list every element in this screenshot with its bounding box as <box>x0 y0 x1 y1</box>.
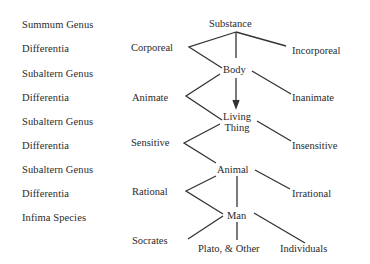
line-substance-incorporeal <box>236 32 286 46</box>
level-subaltern-genus-1: Subaltern Genus <box>22 68 93 80</box>
line-man-individuals <box>254 213 305 243</box>
node-man: Man <box>227 210 246 221</box>
node-animate: Animate <box>132 92 168 103</box>
node-inanimate: Inanimate <box>292 92 334 103</box>
line-animal-rational-man <box>186 176 223 214</box>
line-living-insensitive <box>257 121 291 141</box>
line-living-sensitive-animal <box>184 124 220 163</box>
level-differentia-4: Differentia <box>22 188 69 200</box>
level-differentia-2: Differentia <box>22 92 69 104</box>
node-living-thing-line2: Thing <box>223 122 251 133</box>
level-subaltern-genus-3: Subaltern Genus <box>22 164 93 176</box>
node-irrational: Irrational <box>292 188 331 199</box>
level-subaltern-genus-2: Subaltern Genus <box>22 116 93 128</box>
line-man-socrates <box>188 216 223 239</box>
node-living-thing-line1: Living <box>223 111 251 122</box>
line-animal-irrational <box>255 170 290 189</box>
node-incorporeal: Incorporeal <box>292 45 340 56</box>
node-plato-and-other: Plato, & Other <box>198 243 260 254</box>
line-body-animate-living <box>186 74 222 120</box>
line-body-inanimate <box>252 71 291 94</box>
arrowhead-living <box>233 100 239 108</box>
node-sensitive: Sensitive <box>131 137 170 148</box>
level-infima-species: Infima Species <box>22 212 86 224</box>
node-corporeal: Corporeal <box>131 42 173 53</box>
node-individuals: Individuals <box>280 243 327 254</box>
node-socrates: Socrates <box>132 235 168 246</box>
level-differentia-3: Differentia <box>22 140 69 152</box>
node-rational: Rational <box>132 186 168 197</box>
node-substance: Substance <box>209 18 252 29</box>
node-animal: Animal <box>217 164 249 175</box>
node-insensitive: Insensitive <box>292 140 338 151</box>
tree-connector-lines <box>0 0 370 264</box>
level-summum-genus: Summum Genus <box>22 19 94 31</box>
node-body: Body <box>223 64 246 75</box>
line-substance-corporeal-body <box>189 32 236 68</box>
level-differentia-1: Differentia <box>22 43 69 55</box>
node-living-thing: Living Thing <box>223 111 251 133</box>
